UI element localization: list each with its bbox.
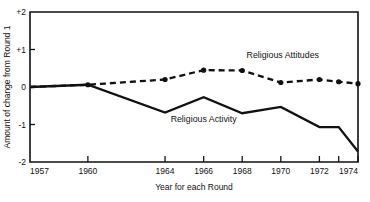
data-point-marker xyxy=(278,80,283,85)
x-tick-label: 1970 xyxy=(271,166,290,176)
x-tick-label: 1972 xyxy=(310,166,329,176)
y-tick-label: 0 xyxy=(21,82,26,92)
y-tick-label: +1 xyxy=(16,45,26,55)
data-point-marker xyxy=(85,82,90,87)
data-point-marker xyxy=(336,79,341,84)
series-annotation: Religious Activity xyxy=(171,114,238,124)
chart-axes xyxy=(30,12,358,162)
y-tick-label: -1 xyxy=(18,120,26,130)
data-point-marker xyxy=(355,81,360,86)
chart-container: +2+10-1-2 195719601964196619681970197219… xyxy=(0,0,370,202)
x-tick-label: 1957 xyxy=(30,166,49,176)
y-tick-label: -2 xyxy=(18,157,26,167)
data-point-marker xyxy=(240,68,245,73)
x-axis-ticks xyxy=(88,156,358,162)
series-annotation: Religious Attitudes xyxy=(247,50,320,60)
x-tick-label: 1966 xyxy=(194,166,213,176)
axis-frame xyxy=(30,12,358,162)
x-tick-label: 1960 xyxy=(78,166,97,176)
x-tick-label: 1968 xyxy=(233,166,252,176)
x-tick-label: 1974 xyxy=(339,166,358,176)
series-group xyxy=(30,70,358,151)
y-axis-title: Amount of change from Round 1 xyxy=(2,25,12,148)
data-point-marker xyxy=(317,77,322,82)
data-point-marker xyxy=(162,77,167,82)
y-tick-label: +2 xyxy=(16,7,26,17)
line-chart: +2+10-1-2 195719601964196619681970197219… xyxy=(0,0,370,202)
data-point-marker xyxy=(201,68,206,73)
x-axis-title: Year for each Round xyxy=(155,182,233,192)
y-axis-tick-labels: +2+10-1-2 xyxy=(16,7,26,167)
x-axis-tick-labels: 19571960196419661968197019721974 xyxy=(30,166,358,176)
x-tick-label: 1964 xyxy=(156,166,175,176)
